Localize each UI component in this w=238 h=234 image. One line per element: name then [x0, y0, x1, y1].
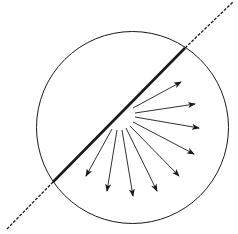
arrow-3 — [135, 117, 199, 128]
diagram-canvas — [0, 0, 238, 234]
arrow-2 — [135, 104, 195, 113]
arrow-8 — [107, 130, 117, 191]
dashed-line-upper-extension — [185, 2, 233, 48]
radiating-arrows — [86, 82, 199, 196]
dashed-line-lower-extension — [7, 182, 53, 229]
arrow-7 — [122, 130, 133, 196]
